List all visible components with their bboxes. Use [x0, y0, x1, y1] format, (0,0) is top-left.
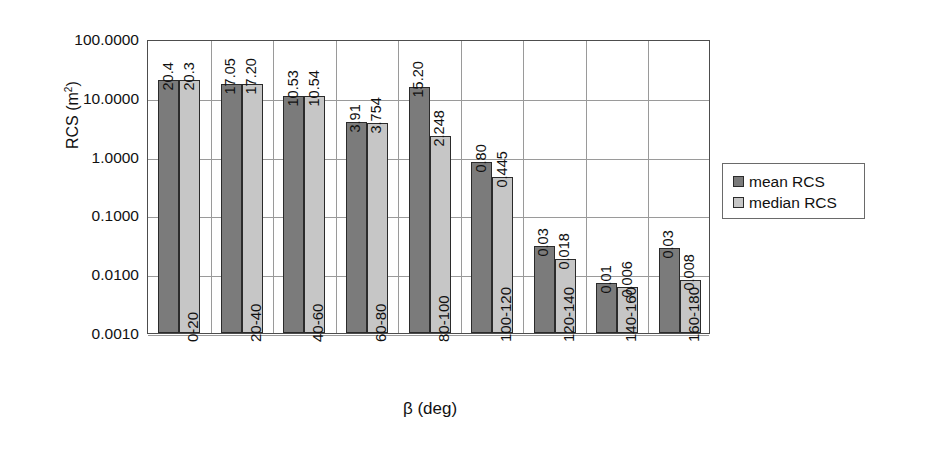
y-axis-tick-label: 10.0000: [47, 91, 139, 107]
bar-value-label: 10.53: [285, 71, 300, 107]
x-axis-tick-label: 160-180: [686, 287, 701, 342]
y-axis-tick-label: 0.0100: [47, 267, 139, 283]
legend-swatch-mean-icon: [733, 176, 744, 187]
gridline-vertical: [586, 41, 587, 333]
x-axis-tick-label: 100-120: [498, 287, 513, 342]
bar-value-label: 20.4: [160, 62, 175, 90]
y-axis-tick-label: 100.0000: [47, 32, 139, 48]
bar-median: [242, 84, 263, 333]
bar-mean: [659, 248, 680, 333]
y-axis-tick-label: 0.1000: [47, 208, 139, 224]
legend-label-median: median RCS: [749, 195, 837, 211]
legend-label-mean: mean RCS: [749, 174, 825, 190]
y-axis-title-close: ): [64, 81, 81, 86]
bar-value-label: 3.91: [348, 104, 363, 132]
bar-mean: [409, 87, 430, 333]
gridline-vertical: [398, 41, 399, 333]
x-axis-tick-label: 120-140: [561, 287, 576, 342]
bar-value-label: 0.018: [557, 233, 572, 269]
gridline-vertical: [648, 41, 649, 333]
bar-value-label: 0.008: [682, 254, 697, 290]
bar-value-label: 10.54: [306, 71, 321, 107]
x-axis-tick-label: 60-80: [373, 304, 388, 342]
bar-mean: [158, 80, 179, 333]
bar-value-label: 2.248: [432, 110, 447, 146]
bar-median: [304, 96, 325, 333]
bar-mean: [471, 162, 492, 333]
y-axis-title: RCS (m2): [61, 40, 81, 190]
bar-mean: [283, 96, 304, 333]
bar-value-label: 17.20: [244, 58, 259, 94]
bar-mean: [346, 122, 367, 333]
x-axis-tick-label: 140-160: [623, 287, 638, 342]
bar-median: [179, 80, 200, 333]
bar-mean: [534, 246, 555, 333]
x-axis-tick-label: 80-100: [436, 295, 451, 342]
bar-value-label: 15.20: [411, 61, 426, 97]
bar-value-label: 20.3: [181, 62, 196, 90]
x-axis-tick-label: 20-40: [248, 304, 263, 342]
gridline-vertical: [336, 41, 337, 333]
legend-item-mean: mean RCS: [733, 171, 864, 192]
legend-item-median: median RCS: [733, 192, 864, 213]
gridline-vertical: [273, 41, 274, 333]
bar-median: [367, 123, 388, 333]
gridline-vertical: [461, 41, 462, 333]
bar-value-label: 17.05: [223, 58, 238, 94]
bar-value-label: 0.03: [536, 228, 551, 256]
x-axis-title: β (deg): [340, 400, 520, 417]
bar-value-label: 3.754: [369, 97, 384, 133]
bar-mean: [221, 84, 242, 333]
legend: mean RCS median RCS: [722, 163, 865, 219]
y-axis-tick-label: 0.0010: [47, 326, 139, 342]
x-axis-tick-label: 40-60: [310, 304, 325, 342]
y-axis-tick-label: 1.0000: [47, 150, 139, 166]
gridline-vertical: [523, 41, 524, 333]
gridline-vertical: [211, 41, 212, 333]
chart-figure: RCS (m2) 100.000010.00001.00000.10000.01…: [0, 0, 925, 457]
legend-swatch-median-icon: [733, 197, 744, 208]
bar-value-label: 0.445: [494, 151, 509, 187]
bar-value-label: 0.80: [473, 145, 488, 173]
bar-value-label: 0.01: [598, 265, 613, 293]
bar-value-label: 0.03: [661, 230, 676, 258]
x-axis-tick-label: 0-20: [185, 312, 200, 342]
